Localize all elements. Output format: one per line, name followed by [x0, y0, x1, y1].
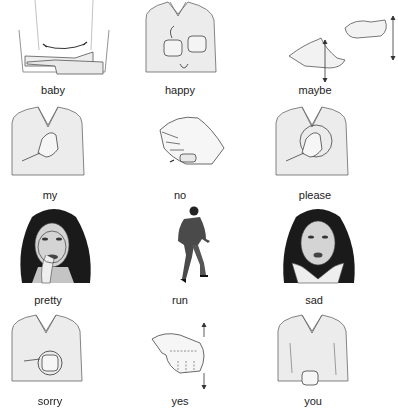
hand-circling-face-icon: [14, 207, 94, 285]
cradling-arms-icon: [5, 0, 125, 80]
sign-label: please: [265, 189, 365, 201]
hand-on-chest-icon: [8, 105, 98, 180]
sign-run: run: [130, 205, 260, 305]
fists-circling-chest-icon: [138, 0, 258, 80]
nodding-fist-icon: [150, 321, 230, 397]
sign-label: maybe: [265, 84, 365, 96]
walking-man-icon: [164, 205, 224, 285]
sign-label: no: [130, 189, 230, 201]
sign-you: you: [260, 305, 398, 412]
sign-label: sorry: [0, 395, 100, 407]
sign-label: happy: [130, 84, 230, 96]
sign-happy: happy: [130, 0, 260, 100]
sign-label: baby: [3, 84, 103, 96]
hands-on-cheeks-face-icon: [278, 207, 358, 285]
sign-my: my: [0, 100, 130, 205]
sign-please: please: [260, 100, 398, 205]
sign-maybe: maybe: [260, 0, 398, 100]
sign-no: no: [130, 100, 260, 205]
sign-yes: yes: [130, 305, 260, 412]
sign-sorry: sorry: [0, 305, 130, 412]
fist-circling-chest-icon: [8, 313, 98, 389]
sign-sad: sad: [260, 205, 398, 305]
sign-label: my: [0, 189, 100, 201]
sign-label: yes: [130, 395, 230, 407]
sign-label: you: [263, 395, 363, 407]
palm-circling-chest-icon: [272, 105, 362, 180]
pointing-hand-torso-icon: [274, 313, 364, 389]
alternating-palms-icon: [285, 8, 398, 88]
fingers-snap-thumb-icon: [146, 108, 226, 178]
sign-baby: baby: [0, 0, 130, 100]
sign-pretty: pretty: [0, 205, 130, 305]
